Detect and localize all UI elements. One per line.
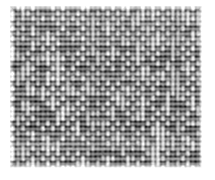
weave-texture-canvas bbox=[10, 6, 202, 168]
texture-figure bbox=[0, 0, 215, 180]
woven-fabric-swatch bbox=[10, 6, 202, 168]
